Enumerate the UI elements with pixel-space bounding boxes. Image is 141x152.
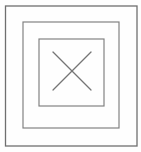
- figure-canvas: Nested squares with diagonal cross: [0, 0, 141, 152]
- outer-square: [6, 6, 138, 146]
- cross-mark: [53, 52, 91, 90]
- nested-squares-diagram: [0, 0, 141, 152]
- inner-square: [39, 39, 104, 106]
- middle-square: [23, 22, 119, 128]
